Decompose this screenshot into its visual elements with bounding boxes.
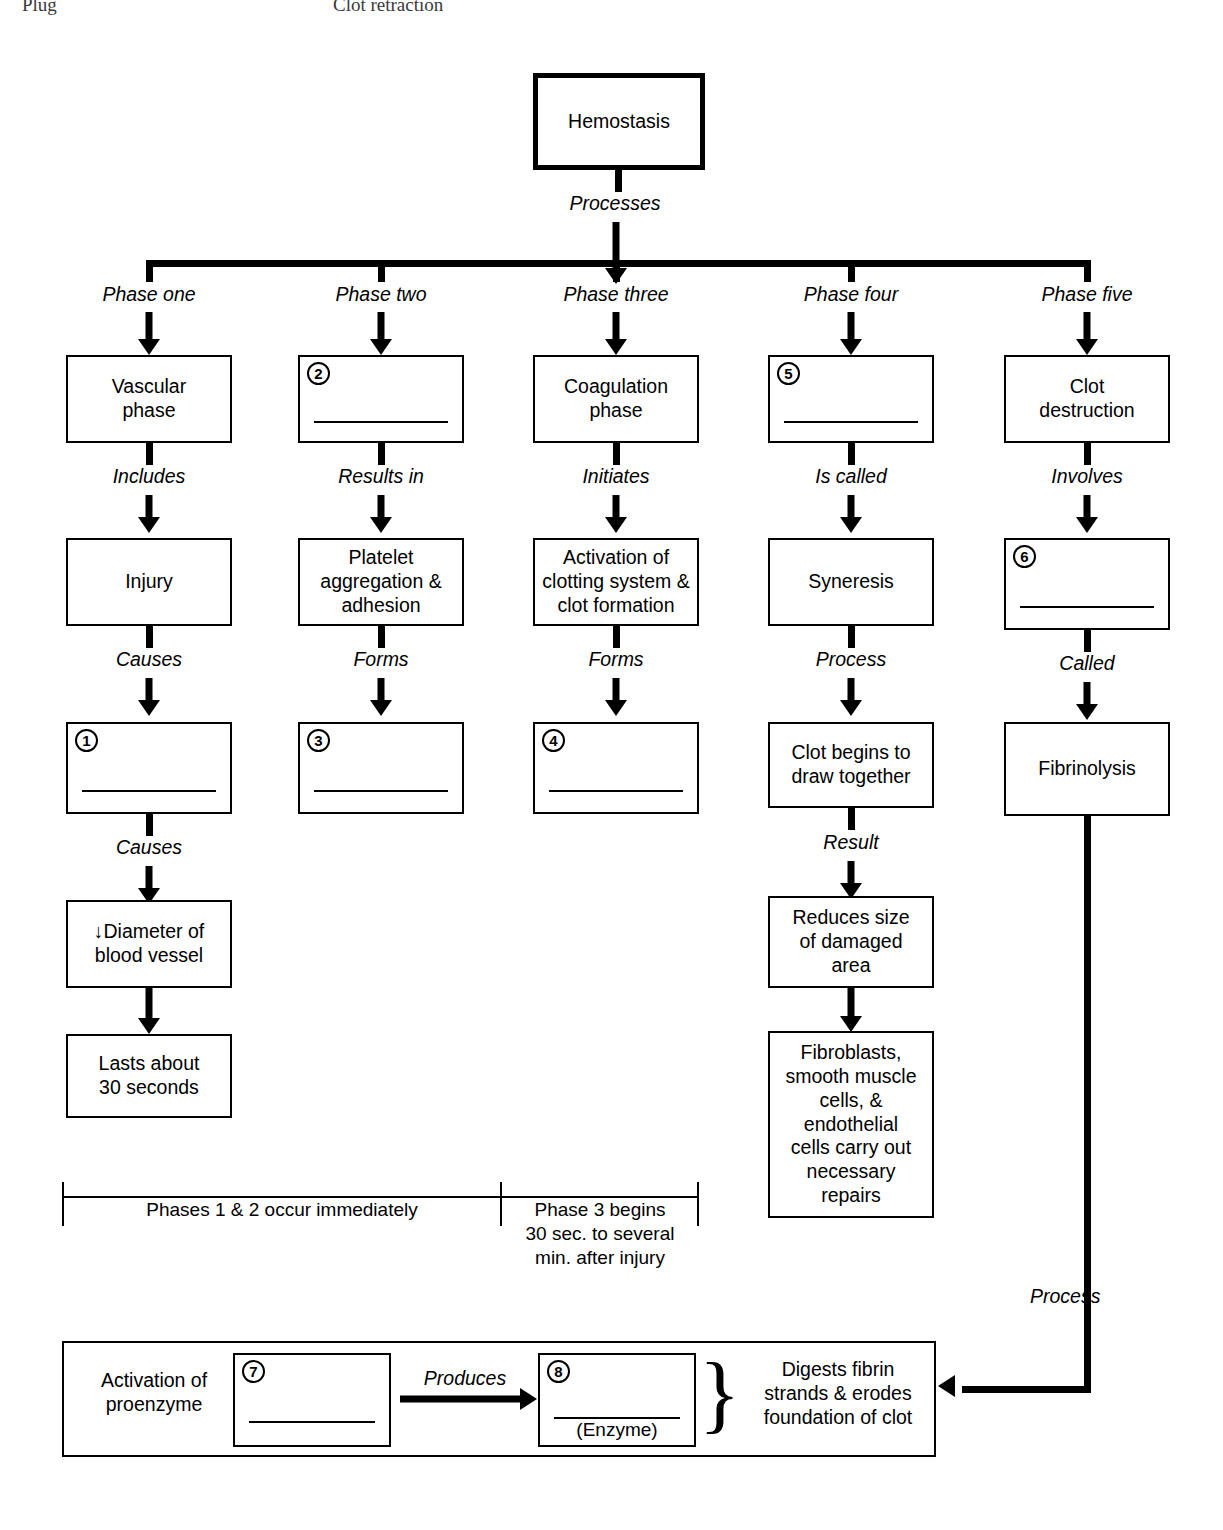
phase-arrow-five xyxy=(1076,312,1098,358)
process-connector-horizontal xyxy=(962,1386,1090,1393)
blank-number-7: 7 xyxy=(242,1360,265,1383)
c5-arrow-1 xyxy=(1076,495,1098,535)
c3-arrow-2 xyxy=(605,678,627,718)
node-blank-4[interactable]: 4 xyxy=(533,722,699,814)
node-blank-3[interactable]: 3 xyxy=(298,722,464,814)
phase-arrow-four xyxy=(840,312,862,358)
node-syneresis-label: Syneresis xyxy=(802,570,900,594)
c4-stub-2 xyxy=(848,626,855,648)
page-header-center: Clot retraction xyxy=(333,0,443,16)
node-blank-2[interactable]: 2 xyxy=(298,355,464,443)
phase-label-four: Phase four xyxy=(751,283,951,306)
node-blank-1[interactable]: 1 xyxy=(66,722,232,814)
node-hemostasis: Hemostasis xyxy=(533,73,705,170)
panel-right-caption: Digests fibrin strands & erodes foundati… xyxy=(740,1358,936,1429)
c4-stub-3 xyxy=(848,808,855,830)
blank-number-4: 4 xyxy=(542,729,565,752)
blank-number-6: 6 xyxy=(1013,545,1036,568)
node-platelet-aggregation: Platelet aggregation & adhesion xyxy=(298,538,464,626)
answer-line-3 xyxy=(314,790,448,792)
node-blank-5[interactable]: 5 xyxy=(768,355,934,443)
c1-connector-causes-1: Causes xyxy=(49,648,249,671)
c2-connector-results-in: Results in xyxy=(281,465,481,488)
c4-arrow-4 xyxy=(840,988,862,1034)
answer-line-4 xyxy=(549,790,683,792)
phase-stub-two xyxy=(378,260,385,282)
node-fibrinolysis-label: Fibrinolysis xyxy=(1032,757,1142,781)
c2-arrow-1 xyxy=(370,495,392,535)
phase-arrow-two xyxy=(370,312,392,358)
c3-stub-2 xyxy=(613,626,620,648)
node-diameter-blood-vessel-label: ↓Diameter of blood vessel xyxy=(88,920,211,968)
c5-stub-2 xyxy=(1084,630,1091,652)
node-blank-8[interactable]: 8 (Enzyme) xyxy=(538,1353,696,1447)
blank-number-2: 2 xyxy=(307,362,330,385)
phase-arrow-one xyxy=(138,312,160,358)
c1-arrow-1 xyxy=(138,495,160,535)
phase-arrow-three xyxy=(605,312,627,358)
c3-connector-forms: Forms xyxy=(516,648,716,671)
page-header-left: Plug xyxy=(22,0,57,16)
answer-line-2 xyxy=(314,421,448,423)
c2-connector-forms: Forms xyxy=(281,648,481,671)
node-coagulation-phase: Coagulation phase xyxy=(533,355,699,443)
c4-stub-1 xyxy=(848,443,855,465)
process-connector-arrowhead xyxy=(938,1375,968,1397)
root-connector-stub-upper xyxy=(615,170,622,192)
node-hemostasis-label: Hemostasis xyxy=(562,110,676,134)
connector-label-process-bottom: Process xyxy=(1030,1285,1220,1308)
node-lasts-30-seconds-label: Lasts about 30 seconds xyxy=(93,1052,206,1100)
connector-label-produces: Produces xyxy=(400,1367,530,1390)
node-blank-7[interactable]: 7 xyxy=(233,1353,391,1447)
node-coagulation-phase-label: Coagulation phase xyxy=(558,375,674,423)
c3-arrow-1 xyxy=(605,495,627,535)
blank-number-5: 5 xyxy=(777,362,800,385)
node-reduces-size-label: Reduces size of damaged area xyxy=(786,906,915,977)
node-fibroblasts-repairs: Fibroblasts, smooth muscle cells, & endo… xyxy=(768,1031,934,1218)
node-clot-draws-together-label: Clot begins to draw together xyxy=(785,741,916,789)
panel-left-caption: Activation of proenzyme xyxy=(74,1369,234,1417)
node-syneresis: Syneresis xyxy=(768,538,934,626)
flowchart-page: Plug Clot retraction Hemostasis Processe… xyxy=(0,0,1223,1530)
connector-label-processes: Processes xyxy=(515,192,715,215)
c5-connector-involves: Involves xyxy=(987,465,1187,488)
phase-stub-five xyxy=(1084,260,1091,282)
blank-number-8: 8 xyxy=(547,1360,570,1383)
c4-arrow-1 xyxy=(840,495,862,535)
c2-stub-1 xyxy=(378,443,385,465)
node-activation-clotting-system-label: Activation of clotting system & clot for… xyxy=(536,546,695,617)
node-vascular-phase: Vascular phase xyxy=(66,355,232,443)
produces-arrow xyxy=(400,1388,537,1410)
c1-stub-1 xyxy=(146,443,153,465)
node-injury-label: Injury xyxy=(119,570,179,594)
c1-stub-2 xyxy=(146,626,153,648)
node-clot-destruction-label: Clot destruction xyxy=(1033,375,1140,423)
blank-number-1: 1 xyxy=(75,729,98,752)
c1-connector-causes-2: Causes xyxy=(49,836,249,859)
phase-stub-four xyxy=(848,260,855,282)
enzyme-sublabel: (Enzyme) xyxy=(540,1418,694,1441)
phase-stub-one xyxy=(146,260,153,282)
c5-stub-1 xyxy=(1084,443,1091,465)
timing-caption-left: Phases 1 & 2 occur immediately xyxy=(64,1198,500,1222)
phase-label-one: Phase one xyxy=(49,283,249,306)
node-diameter-blood-vessel: ↓Diameter of blood vessel xyxy=(66,900,232,988)
c5-connector-called: Called xyxy=(987,652,1187,675)
c4-arrow-2 xyxy=(840,678,862,718)
node-fibrinolysis: Fibrinolysis xyxy=(1004,722,1170,816)
right-brace-icon: } xyxy=(699,1350,740,1436)
node-clot-destruction: Clot destruction xyxy=(1004,355,1170,443)
blank-number-3: 3 xyxy=(307,729,330,752)
node-injury: Injury xyxy=(66,538,232,626)
c4-arrow-3 xyxy=(840,861,862,901)
c1-stub-3 xyxy=(146,814,153,836)
answer-line-6 xyxy=(1020,606,1154,608)
node-reduces-size: Reduces size of damaged area xyxy=(768,896,934,988)
timing-caption-right: Phase 3 begins 30 sec. to several min. a… xyxy=(502,1198,698,1269)
node-vascular-phase-label: Vascular phase xyxy=(106,375,192,423)
node-blank-6[interactable]: 6 xyxy=(1004,538,1170,630)
c3-connector-initiates: Initiates xyxy=(516,465,716,488)
answer-line-1 xyxy=(82,790,216,792)
c1-arrow-2 xyxy=(138,678,160,718)
node-clot-draws-together: Clot begins to draw together xyxy=(768,722,934,808)
